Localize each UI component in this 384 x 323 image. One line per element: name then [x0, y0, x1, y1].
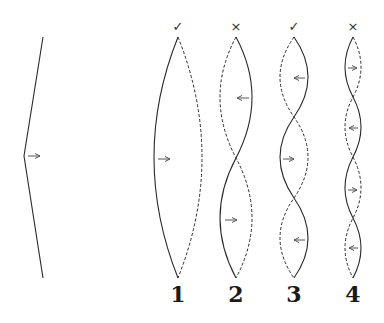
mode-label: 2	[228, 281, 243, 307]
mode-1: ✓ 1	[154, 19, 202, 307]
mode-mark: ×	[348, 19, 359, 34]
mode-4: × 4	[345, 19, 361, 307]
plucked-string	[24, 37, 43, 278]
mode-mark: ✓	[289, 19, 300, 34]
mode-3: ✓ 3	[280, 19, 308, 307]
mode-mark: ×	[231, 19, 242, 34]
mode-mark: ✓	[173, 19, 184, 34]
mode-label: 1	[170, 281, 185, 307]
mode-2: × 2	[220, 19, 252, 307]
standing-waves-diagram: ✓ 1 × 2 ✓ 3 × 4	[0, 0, 384, 323]
mode-label: 3	[286, 281, 301, 307]
mode-label: 4	[345, 281, 360, 307]
